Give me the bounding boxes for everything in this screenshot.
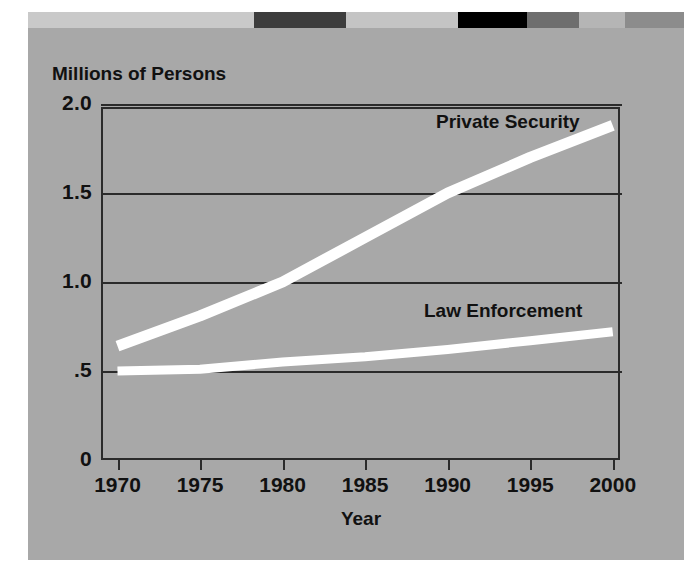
top-strip-segment-4 xyxy=(458,12,527,28)
top-strip-segment-6 xyxy=(579,12,625,28)
x-tick-label-1970: 1970 xyxy=(94,473,141,497)
gridline-1.5 xyxy=(101,193,622,195)
y-tick-label-1.0: 1.0 xyxy=(62,269,92,293)
gridline-.5 xyxy=(101,371,622,373)
x-tick-label-1975: 1975 xyxy=(177,473,224,497)
series-label-private-security: Private Security xyxy=(436,111,580,133)
y-tick-label-1.5: 1.5 xyxy=(62,180,92,204)
x-tick-1990 xyxy=(448,460,450,470)
top-strip-segment-7 xyxy=(625,12,684,28)
y-axis-tick-labels: 2.01.51.0.50 xyxy=(36,0,92,578)
decorative-top-strip xyxy=(28,12,684,28)
y-tick-label-2.0: 2.0 xyxy=(62,91,92,115)
x-axis-title: Year xyxy=(341,508,381,530)
x-tick-2000 xyxy=(613,460,615,470)
x-tick-label-2000: 2000 xyxy=(589,473,636,497)
series-label-law-enforcement: Law Enforcement xyxy=(424,300,582,322)
x-tick-label-1985: 1985 xyxy=(342,473,389,497)
gridline-2.0 xyxy=(101,104,622,106)
y-tick-label-0: 0 xyxy=(80,447,92,471)
x-tick-1975 xyxy=(200,460,202,470)
y-tick-label-.5: .5 xyxy=(74,358,92,382)
x-tick-1980 xyxy=(283,460,285,470)
x-tick-label-1995: 1995 xyxy=(507,473,554,497)
gridline-1.0 xyxy=(101,282,622,284)
x-tick-label-1980: 1980 xyxy=(259,473,306,497)
top-strip-segment-5 xyxy=(527,12,579,28)
top-strip-segment-2 xyxy=(254,12,346,28)
chart-figure: Millions of Persons 2.01.51.0.50 Private… xyxy=(0,0,684,578)
x-tick-1970 xyxy=(118,460,120,470)
plot-area xyxy=(101,104,621,460)
x-tick-1985 xyxy=(365,460,367,470)
x-tick-1995 xyxy=(530,460,532,470)
top-strip-segment-3 xyxy=(346,12,458,28)
x-tick-label-1990: 1990 xyxy=(424,473,471,497)
